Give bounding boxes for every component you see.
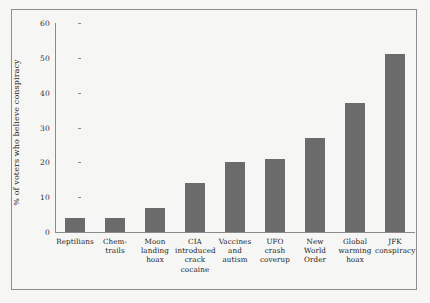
bar — [145, 208, 165, 232]
bar — [385, 54, 405, 232]
x-axis-line — [55, 232, 415, 233]
x-tick-label: UFOcrashcoverup — [255, 237, 295, 265]
bar — [305, 138, 325, 232]
x-tick-label: NewWorldOrder — [295, 237, 335, 265]
bar — [185, 183, 205, 232]
bar — [265, 159, 285, 232]
y-tick-label: 20 — [40, 158, 50, 167]
y-tick-label: 10 — [40, 193, 50, 202]
bar — [65, 218, 85, 232]
y-tick-label: 50 — [40, 53, 50, 62]
x-tick-label: Moonlandinghoax — [135, 237, 175, 265]
x-tick-label: JFKconspiracy — [375, 237, 415, 255]
y-tick-label: 0 — [45, 228, 50, 237]
y-tick-label: 40 — [40, 88, 50, 97]
y-axis-label: % of voters who believe conspiracy — [12, 43, 21, 223]
x-tick-label: CIAintroducedcrackcocaine — [175, 237, 215, 274]
y-tick-label: 30 — [40, 123, 50, 132]
chart-figure: % of voters who believe conspiracy 01020… — [0, 0, 430, 303]
bar-series — [55, 23, 415, 232]
bar — [105, 218, 125, 232]
x-tick-label: Reptilians — [55, 237, 95, 246]
y-tick-label: 60 — [40, 19, 50, 28]
y-axis-ticks: 0102030405060 — [26, 0, 50, 303]
bar — [225, 162, 245, 232]
x-tick-label: Chem-trails — [95, 237, 135, 255]
bar — [345, 103, 365, 232]
x-tick-label: Vaccinesandautism — [215, 237, 255, 265]
x-tick-label: Globalwarminghoax — [335, 237, 375, 265]
